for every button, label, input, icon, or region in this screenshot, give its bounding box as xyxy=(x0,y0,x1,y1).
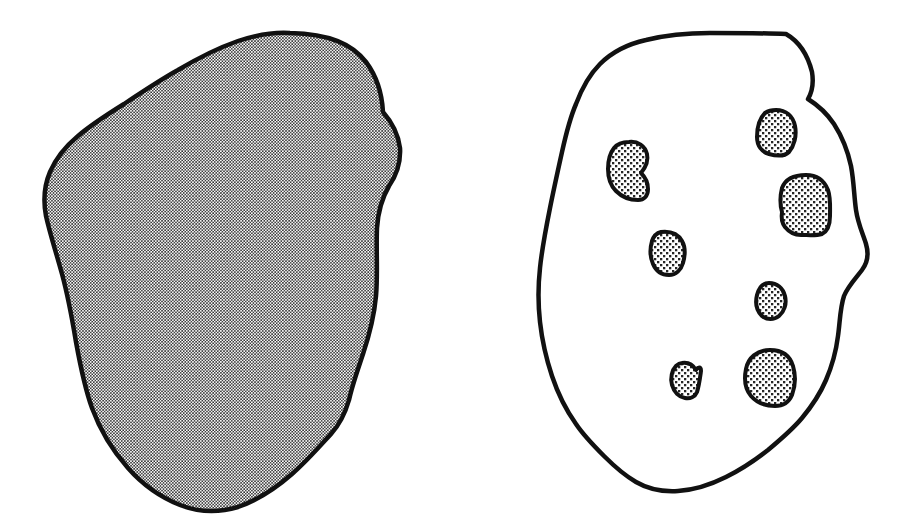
inclusion-center[interactable] xyxy=(651,232,685,275)
inclusion-lower-left-small[interactable] xyxy=(671,363,701,398)
inclusion-large-right[interactable] xyxy=(781,175,831,235)
figure-canvas xyxy=(0,0,904,527)
two-blob-diagram xyxy=(0,0,904,527)
inclusion-upper-right[interactable] xyxy=(757,110,796,156)
inclusion-mid-right[interactable] xyxy=(756,283,785,319)
inclusion-lower-right[interactable] xyxy=(745,350,795,406)
inclusion-kidney-upper-left[interactable] xyxy=(608,142,648,200)
